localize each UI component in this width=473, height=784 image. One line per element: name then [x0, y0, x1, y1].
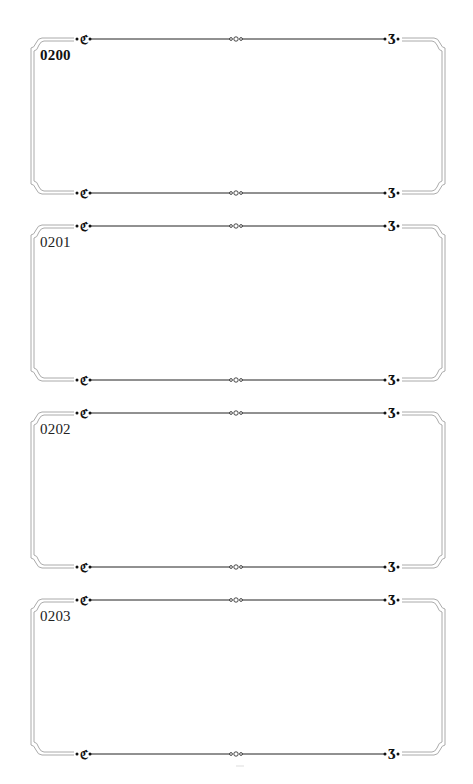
- card-0200: 0200: [28, 35, 448, 197]
- card-label: 0203: [40, 608, 71, 625]
- card-label: 0200: [40, 47, 71, 64]
- page-artifact: [236, 765, 244, 767]
- ornamental-frame-icon: [28, 222, 448, 384]
- card-label: 0202: [40, 421, 71, 438]
- ornamental-frame-icon: [28, 409, 448, 571]
- ornamental-frame-icon: [28, 596, 448, 758]
- ornamental-frame-icon: [28, 35, 448, 197]
- card-label: 0201: [40, 234, 71, 251]
- card-0201: 0201: [28, 222, 448, 384]
- card-0203: 0203: [28, 596, 448, 758]
- card-0202: 0202: [28, 409, 448, 571]
